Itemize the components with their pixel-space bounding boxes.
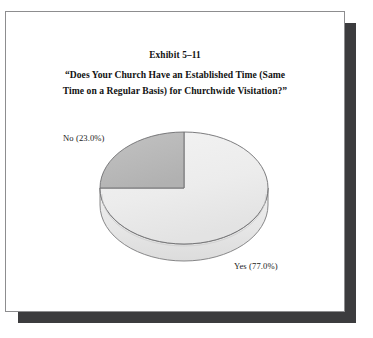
pie-slice-no[interactable] <box>100 132 184 188</box>
page-shadow-right <box>345 23 356 323</box>
figure-area: Exhibit 5–11 “Does Your Church Have an E… <box>6 12 344 311</box>
pie-chart-svg <box>98 120 273 268</box>
pie-chart: No (23.0%) Yes (77.0%) <box>6 12 344 311</box>
page-frame: Exhibit 5–11 “Does Your Church Have an E… <box>5 11 345 312</box>
page-shadow-bottom <box>18 312 356 323</box>
pie-label-no: No (23.0%) <box>63 133 105 143</box>
figure-page: Exhibit 5–11 “Does Your Church Have an E… <box>0 0 373 338</box>
pie-label-yes: Yes (77.0%) <box>234 261 278 271</box>
